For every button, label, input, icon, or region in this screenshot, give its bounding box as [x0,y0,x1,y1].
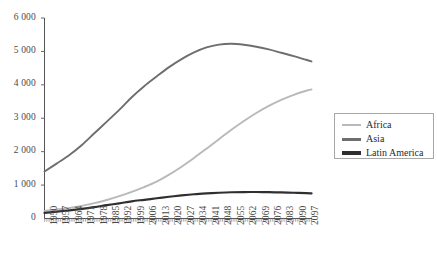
x-axis-tick-label: 2076 [273,206,283,225]
x-axis-tick-label: 2097 [310,206,320,225]
x-axis-tick-label: 2048 [223,206,233,225]
legend-swatch-asia [342,138,361,141]
y-axis-tick-label: 0 [2,212,36,222]
x-axis-tick-label: 1971 [86,206,96,225]
population-projection-chart: 6 0005 0004 0003 0002 0001 0000 19501957… [0,0,437,266]
x-axis-tick-label: 2027 [186,206,196,225]
legend-item-asia[interactable]: Asia [342,132,384,146]
x-axis-tick-label: 2069 [261,206,271,225]
x-axis-tick-label: 2034 [198,206,208,225]
x-axis-tick-label: 1992 [123,206,133,225]
x-axis-tick-label: 2062 [248,206,258,225]
y-axis-tick-label: 3 000 [2,112,36,122]
x-axis-tick-label: 2090 [298,206,308,225]
y-axis-tick-label: 4 000 [2,78,36,88]
series-line-asia [45,44,312,172]
x-axis-tick-label: 2006 [148,206,158,225]
y-axis-tick-label: 6 000 [2,12,36,22]
legend-item-latin-america[interactable]: Latin America [342,146,423,160]
x-axis-tick-label: 1978 [99,206,109,225]
y-axis-tick-marks [41,18,45,185]
legend-label-latin-america: Latin America [366,148,423,158]
x-axis-tick-label: 2020 [173,206,183,225]
data-series-group [45,44,312,213]
legend-swatch-africa [342,124,361,127]
y-axis-tick-label: 1 000 [2,179,36,189]
chart-legend: Africa Asia Latin America [334,113,434,159]
x-axis-tick-label: 2083 [285,206,295,225]
x-axis-tick-label: 1950 [49,206,59,225]
legend-item-africa[interactable]: Africa [342,118,392,132]
y-axis-tick-label: 2 000 [2,145,36,155]
x-axis-tick-label: 2041 [211,206,221,225]
x-axis-tick-label: 1985 [111,206,121,225]
legend-swatch-latin-america [342,151,361,154]
x-axis-tick-label: 1999 [136,206,146,225]
legend-label-asia: Asia [366,134,384,144]
x-axis-tick-label: 1957 [61,206,71,225]
x-axis-tick-label: 2055 [236,206,246,225]
y-axis-tick-label: 5 000 [2,45,36,55]
x-axis-tick-label: 1964 [74,206,84,225]
legend-label-africa: Africa [366,120,392,130]
x-axis-tick-label: 2013 [161,206,171,225]
